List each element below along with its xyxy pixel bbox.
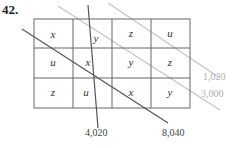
label-4020: 4,020 (85, 127, 108, 138)
cell-r2c1: u (50, 56, 56, 68)
label-8040: 8,040 (162, 127, 185, 138)
diagonal-line-1020 (108, 3, 220, 78)
cell-r3c1: z (50, 86, 56, 98)
cell-r1c4: u (167, 27, 173, 39)
cell-r2c3: y (128, 56, 134, 68)
cell-r2c4: z (167, 56, 173, 68)
cell-r3c3: x (128, 86, 134, 98)
cell-r3c4: y (167, 86, 173, 98)
cell-r3c2: u (83, 86, 89, 98)
grid-diagram: x y z u u x y z z u x y 1,020 3,000 4,02… (0, 0, 232, 148)
label-1020: 1,020 (203, 71, 226, 82)
cell-r2c2: x (85, 56, 91, 68)
cell-r1c2: y (93, 32, 99, 44)
label-3000: 3,000 (201, 88, 224, 99)
cell-r1c1: x (50, 28, 56, 40)
cell-r1c3: z (128, 27, 134, 39)
